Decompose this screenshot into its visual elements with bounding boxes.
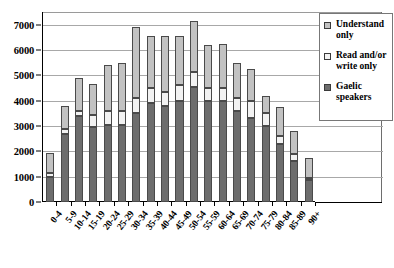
x-axis-tick-mark: [143, 202, 144, 206]
bar-segment-read-write-only[interactable]: [147, 88, 155, 103]
y-axis-tick-label: 0: [29, 197, 34, 208]
y-axis-tick-label: 3000: [14, 121, 34, 132]
bar-segment-gaelic-speakers[interactable]: [61, 134, 69, 202]
bar-segment-gaelic-speakers[interactable]: [46, 177, 54, 202]
x-axis-tick-mark: [157, 202, 158, 206]
bar-group[interactable]: [276, 12, 284, 202]
bar-group[interactable]: [147, 12, 155, 202]
bar-segment-read-write-only[interactable]: [75, 111, 83, 116]
bar-group[interactable]: [61, 12, 69, 202]
bar-segment-read-write-only[interactable]: [89, 115, 97, 128]
bar-segment-understand-only[interactable]: [104, 65, 112, 111]
y-axis-tick-mark: [36, 100, 41, 101]
x-axis-tick-mark: [315, 202, 316, 206]
y-axis-tick-mark: [36, 50, 41, 51]
bar-segment-gaelic-speakers[interactable]: [233, 111, 241, 202]
bar-segment-read-write-only[interactable]: [104, 111, 112, 125]
bar-segment-gaelic-speakers[interactable]: [175, 101, 183, 202]
bar-segment-gaelic-speakers[interactable]: [190, 87, 198, 202]
x-axis-tick-mark: [243, 202, 244, 206]
bar-segment-gaelic-speakers[interactable]: [262, 126, 270, 202]
bar-segment-understand-only[interactable]: [247, 69, 255, 101]
gaelic-language-ability-by-age-chart: 01000200030004000500060007000 0-45-910-1…: [0, 0, 394, 268]
bar-segment-gaelic-speakers[interactable]: [89, 127, 97, 202]
bar-segment-understand-only[interactable]: [204, 45, 212, 88]
bar-segment-understand-only[interactable]: [147, 36, 155, 88]
legend-label-read-write-only: Read and/or write only: [336, 50, 389, 72]
bar-group[interactable]: [204, 12, 212, 202]
bar-segment-read-write-only[interactable]: [61, 129, 69, 134]
bar-segment-read-write-only[interactable]: [118, 111, 126, 125]
bar-group[interactable]: [132, 12, 140, 202]
bar-segment-understand-only[interactable]: [61, 106, 69, 129]
bar-segment-gaelic-speakers[interactable]: [290, 161, 298, 202]
bar-segment-gaelic-speakers[interactable]: [305, 180, 313, 202]
bar-segment-gaelic-speakers[interactable]: [161, 106, 169, 202]
bar-segment-understand-only[interactable]: [89, 84, 97, 114]
bar-segment-read-write-only[interactable]: [161, 92, 169, 106]
bar-segment-read-write-only[interactable]: [233, 98, 241, 111]
y-axis-tick-label: 7000: [14, 19, 34, 30]
bar-segment-read-write-only[interactable]: [305, 178, 313, 181]
bar-segment-understand-only[interactable]: [175, 36, 183, 85]
bar-segment-read-write-only[interactable]: [262, 113, 270, 126]
x-axis-tick-mark: [200, 202, 201, 206]
bar-segment-understand-only[interactable]: [233, 63, 241, 98]
bar-group[interactable]: [89, 12, 97, 202]
bar-group[interactable]: [46, 12, 54, 202]
bar-segment-read-write-only[interactable]: [175, 85, 183, 100]
bar-group[interactable]: [305, 12, 313, 202]
bar-segment-understand-only[interactable]: [118, 63, 126, 111]
bar-segment-gaelic-speakers[interactable]: [147, 103, 155, 202]
bar-segment-read-write-only[interactable]: [247, 101, 255, 119]
bar-segment-understand-only[interactable]: [161, 36, 169, 92]
bar-group[interactable]: [219, 12, 227, 202]
x-axis-tick-mark: [272, 202, 273, 206]
bar-segment-understand-only[interactable]: [290, 131, 298, 154]
chart-legend: Understand only Read and/or write only G…: [319, 13, 393, 121]
bar-segment-gaelic-speakers[interactable]: [75, 116, 83, 202]
legend-item-gaelic-speakers: Gaelic speakers: [324, 81, 389, 103]
bar-segment-gaelic-speakers[interactable]: [247, 118, 255, 202]
bar-segment-read-write-only[interactable]: [132, 98, 140, 113]
bar-segment-read-write-only[interactable]: [290, 154, 298, 162]
bar-segment-gaelic-speakers[interactable]: [204, 101, 212, 202]
legend-label-understand-only: Understand only: [336, 19, 389, 41]
bar-segment-understand-only[interactable]: [190, 21, 198, 72]
bar-group[interactable]: [262, 12, 270, 202]
bar-group[interactable]: [104, 12, 112, 202]
y-axis-tick-mark: [36, 24, 41, 25]
bar-segment-gaelic-speakers[interactable]: [276, 144, 284, 202]
bar-segment-gaelic-speakers[interactable]: [118, 125, 126, 202]
bar-segment-understand-only[interactable]: [75, 78, 83, 111]
bar-segment-understand-only[interactable]: [262, 96, 270, 114]
bar-group[interactable]: [190, 12, 198, 202]
bar-group[interactable]: [75, 12, 83, 202]
bar-group[interactable]: [175, 12, 183, 202]
bar-group[interactable]: [247, 12, 255, 202]
bar-segment-understand-only[interactable]: [46, 153, 54, 173]
bar-segment-read-write-only[interactable]: [276, 136, 284, 144]
read-write-only-swatch: [324, 53, 331, 60]
bar-segment-read-write-only[interactable]: [46, 173, 54, 177]
legend-label-gaelic-speakers: Gaelic speakers: [336, 81, 389, 103]
bar-segment-read-write-only[interactable]: [204, 88, 212, 101]
bar-segment-gaelic-speakers[interactable]: [219, 101, 227, 202]
bar-segment-read-write-only[interactable]: [219, 88, 227, 101]
plot-area: [42, 12, 315, 202]
bar-segment-read-write-only[interactable]: [190, 72, 198, 87]
x-axis-tick-mark: [229, 202, 230, 206]
x-axis: 0-45-910-1415-1920-2425-2930-3435-3940-4…: [42, 202, 315, 268]
bar-segment-gaelic-speakers[interactable]: [132, 113, 140, 202]
bar-group[interactable]: [290, 12, 298, 202]
bar-group[interactable]: [118, 12, 126, 202]
bar-segment-understand-only[interactable]: [276, 107, 284, 136]
bar-group[interactable]: [233, 12, 241, 202]
bar-segment-understand-only[interactable]: [305, 158, 313, 178]
bar-segment-gaelic-speakers[interactable]: [104, 125, 112, 202]
bar-group[interactable]: [161, 12, 169, 202]
bar-segment-understand-only[interactable]: [132, 27, 140, 98]
bar-segment-understand-only[interactable]: [219, 44, 227, 88]
x-axis-tick-mark: [99, 202, 100, 206]
gaelic-speakers-swatch: [324, 84, 331, 91]
